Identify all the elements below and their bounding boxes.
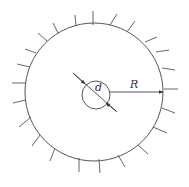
diameter-arrow-lower [106, 103, 116, 111]
diameter-arrow-upper [74, 74, 85, 84]
diagram-canvas: d R [0, 0, 189, 187]
diameter-label: d [95, 81, 102, 94]
radius-label: R [129, 78, 138, 91]
